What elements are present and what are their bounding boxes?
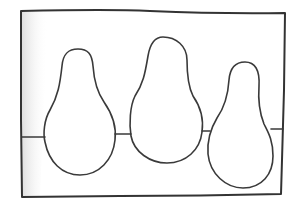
pencil-shading — [22, 12, 48, 197]
pear-shape-3 — [208, 62, 273, 188]
pear-shape-2 — [130, 37, 202, 163]
sketch-canvas — [0, 0, 295, 213]
pear-shape-1 — [44, 49, 115, 175]
